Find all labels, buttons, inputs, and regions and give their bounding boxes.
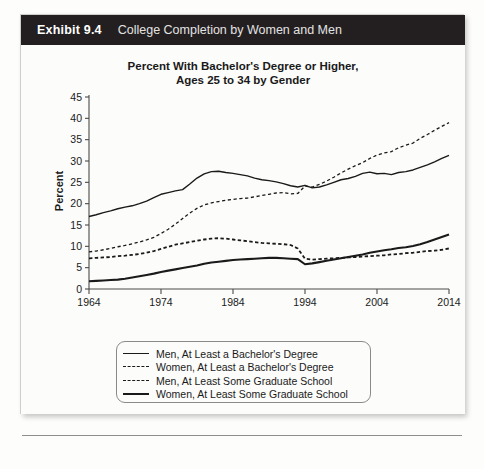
svg-text:1984: 1984 — [221, 296, 245, 308]
svg-text:45: 45 — [70, 91, 82, 103]
svg-text:10: 10 — [70, 240, 82, 252]
exhibit-card: Exhibit 9.4 College Completion by Women … — [20, 14, 464, 414]
legend-line-solid-icon — [123, 349, 149, 359]
chart-title: Percent With Bachelor's Degree or Higher… — [21, 59, 465, 87]
chart-title-line-2: Ages 25 to 34 by Gender — [21, 73, 465, 87]
legend-label: Men, At Least Some Graduate School — [156, 375, 332, 387]
chart-title-line-1: Percent With Bachelor's Degree or Higher… — [128, 60, 359, 72]
legend-line-dashed-icon — [123, 376, 149, 386]
legend-item-men-graduate: Men, At Least Some Graduate School — [123, 374, 370, 388]
svg-text:5: 5 — [76, 261, 82, 273]
svg-text:15: 15 — [70, 219, 82, 231]
legend-item-men-bachelors: Men, At Least a Bachelor's Degree — [123, 347, 370, 361]
chart-body: Percent With Bachelor's Degree or Higher… — [21, 45, 465, 414]
svg-text:40: 40 — [70, 112, 82, 124]
chart-legend: Men, At Least a Bachelor's Degree Women,… — [116, 341, 371, 403]
svg-text:1994: 1994 — [293, 296, 317, 308]
svg-text:2014: 2014 — [437, 296, 461, 308]
legend-line-dashed-icon — [123, 362, 149, 372]
svg-text:1964: 1964 — [77, 296, 101, 308]
plot-area: Percent 05101520253035404519641974198419… — [21, 89, 465, 329]
legend-label: Women, At Least a Bachelor's Degree — [156, 361, 334, 373]
line-chart-svg: 0510152025303540451964197419841994200420… — [21, 89, 465, 329]
page-root: Exhibit 9.4 College Completion by Women … — [0, 0, 484, 469]
exhibit-header: Exhibit 9.4 College Completion by Women … — [21, 15, 465, 45]
legend-label: Women, At Least Some Graduate School — [156, 388, 348, 400]
svg-text:0: 0 — [76, 283, 82, 295]
legend-label: Men, At Least a Bachelor's Degree — [156, 348, 318, 360]
svg-text:20: 20 — [70, 197, 82, 209]
legend-item-women-bachelors: Women, At Least a Bachelor's Degree — [123, 361, 370, 375]
legend-item-women-graduate: Women, At Least Some Graduate School — [123, 388, 370, 402]
exhibit-caption: College Completion by Women and Men — [118, 23, 342, 37]
exhibit-number: Exhibit 9.4 — [37, 23, 102, 37]
svg-text:30: 30 — [70, 155, 82, 167]
svg-text:25: 25 — [70, 176, 82, 188]
svg-text:1974: 1974 — [149, 296, 173, 308]
svg-text:35: 35 — [70, 133, 82, 145]
svg-text:2004: 2004 — [365, 296, 389, 308]
footer-divider — [22, 435, 462, 436]
legend-line-solid-icon — [123, 389, 149, 399]
